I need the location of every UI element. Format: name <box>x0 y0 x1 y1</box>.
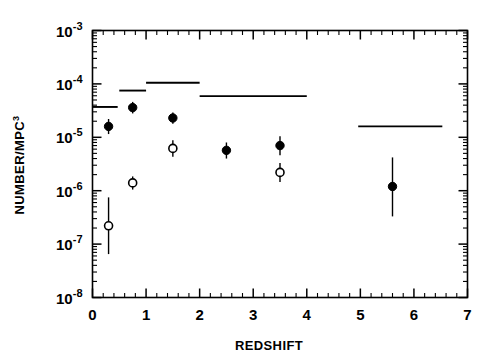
data-point-filled <box>169 114 177 122</box>
data-point-filled <box>276 141 284 149</box>
number-density-vs-redshift-plot: 01234567 10-310-410-510-610-710-8 REDSHI… <box>0 0 486 362</box>
x-axis-title-label: REDSHIFT <box>235 338 303 353</box>
x-tick-label: 6 <box>410 306 418 323</box>
x-tick-label: 4 <box>303 306 312 323</box>
data-point-filled <box>222 146 230 154</box>
x-tick-label: 0 <box>88 306 96 323</box>
chart-figure: 01234567 10-310-410-510-610-710-8 REDSHI… <box>0 0 486 362</box>
y-axis-title: NUMBER/MPC3 <box>11 116 27 215</box>
x-axis-title: REDSHIFT <box>235 338 303 353</box>
data-point-filled <box>128 103 136 111</box>
data-point-open <box>169 144 177 152</box>
y-axis-title-label: NUMBER/MPC3 <box>11 116 27 215</box>
data-point-open <box>129 179 137 187</box>
x-tick-label: 1 <box>142 306 150 323</box>
data-point-open <box>105 222 113 230</box>
x-tick-label: 7 <box>463 306 471 323</box>
data-point-open <box>276 168 284 176</box>
x-tick-label: 3 <box>249 306 257 323</box>
x-tick-label: 5 <box>356 306 364 323</box>
data-point-filled <box>104 122 112 130</box>
data-point-filled <box>388 182 396 190</box>
x-tick-label: 2 <box>195 306 203 323</box>
